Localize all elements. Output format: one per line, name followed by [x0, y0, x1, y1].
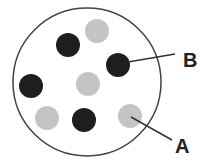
particle-light-bottom-left [35, 106, 59, 130]
label-b: B [183, 49, 197, 71]
particles-group [19, 19, 142, 132]
particle-light-top [85, 19, 109, 43]
particle-dark-top-left [56, 33, 80, 57]
label-b-pointer-line [128, 54, 175, 62]
particle-light-center [76, 72, 100, 96]
particle-dark-b [106, 53, 130, 77]
particle-dark-left [19, 74, 43, 98]
particle-diagram: B A [0, 0, 200, 162]
label-a: A [175, 135, 189, 157]
particle-light-a [118, 104, 142, 128]
labels-group: B A [128, 49, 197, 157]
particle-dark-bottom [72, 108, 96, 132]
